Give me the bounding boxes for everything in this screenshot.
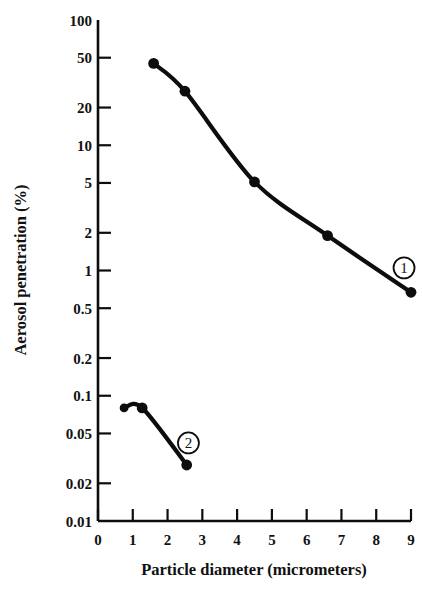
y-tick-label: 100 <box>70 13 93 29</box>
x-tick-label: 8 <box>372 532 380 548</box>
data-point-marker <box>249 176 260 187</box>
y-tick-label: 1 <box>85 263 93 279</box>
data-point-marker <box>181 460 192 471</box>
x-axis-ticks <box>98 509 411 521</box>
curve-label-text: 2 <box>185 435 193 451</box>
y-axis-title: Aerosol penetration (%) <box>11 184 30 355</box>
x-axis-title: Particle diameter (micrometers) <box>141 560 367 579</box>
y-tick-label: 0.05 <box>66 426 92 442</box>
y-axis-tick-labels: 1005020105210.50.20.10.050.020.01 <box>66 13 92 530</box>
x-tick-label: 4 <box>233 532 241 548</box>
y-tick-label: 10 <box>77 138 92 154</box>
y-tick-label: 0.01 <box>66 514 92 530</box>
x-axis-tick-labels: 0123456789 <box>94 532 415 548</box>
y-tick-label: 0.5 <box>73 301 92 317</box>
data-series-layer <box>120 58 417 470</box>
series-line <box>124 404 187 465</box>
series-annotation-layer: 12 <box>177 256 416 454</box>
y-tick-label: 20 <box>77 100 92 116</box>
data-point-marker <box>148 58 159 69</box>
x-tick-label: 9 <box>407 532 415 548</box>
y-tick-label: 0.02 <box>66 476 92 492</box>
series-line <box>154 63 411 292</box>
data-point-marker <box>406 287 417 298</box>
y-tick-label: 0.1 <box>73 388 92 404</box>
curve-label-1: 1 <box>393 256 416 279</box>
data-point-marker <box>120 403 129 412</box>
x-tick-label: 0 <box>94 532 102 548</box>
y-tick-label: 0.2 <box>73 351 92 367</box>
y-axis-ticks <box>98 58 111 484</box>
x-tick-label: 2 <box>164 532 172 548</box>
x-tick-label: 7 <box>338 532 346 548</box>
data-series <box>148 58 416 298</box>
y-tick-label: 50 <box>77 50 92 66</box>
x-tick-label: 6 <box>303 532 311 548</box>
x-tick-label: 1 <box>129 532 137 548</box>
data-point-marker <box>322 230 333 241</box>
y-tick-label: 2 <box>85 225 93 241</box>
data-point-marker <box>180 86 191 97</box>
x-tick-label: 3 <box>199 532 207 548</box>
curve-label-text: 1 <box>400 260 408 276</box>
aerosol-penetration-chart: 1005020105210.50.20.10.050.020.01 012345… <box>0 0 422 600</box>
curve-label-2: 2 <box>177 431 200 454</box>
y-tick-label: 5 <box>85 175 93 191</box>
data-point-marker <box>137 402 148 413</box>
x-tick-label: 5 <box>268 532 276 548</box>
chart-container: 1005020105210.50.20.10.050.020.01 012345… <box>0 0 422 600</box>
